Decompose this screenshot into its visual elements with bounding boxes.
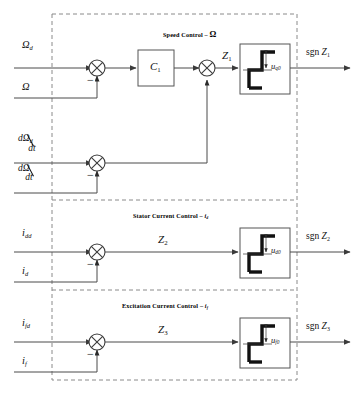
input-label-speed-reference-derivative: dΩd dt xyxy=(18,133,36,152)
input-label-speed-feedback: Ω xyxy=(22,82,30,93)
sum-sign-excitation: − xyxy=(87,348,94,360)
input-label-excitation-feedback: if xyxy=(22,356,27,367)
relay-amplitude-label-excitation: uf0 xyxy=(271,336,279,346)
section-header-speed: Speed Control – Ω xyxy=(163,30,216,39)
sum-sign-speed: − xyxy=(87,74,94,86)
control-block-diagram: Speed Control – Ω Ωd Ω − C1 Z1 uq0 sgn Z… xyxy=(0,0,358,399)
signal-label-z2: Z2 xyxy=(158,234,168,247)
z1-summing-junction xyxy=(199,60,215,76)
section-header-excitation: Excitation Current Control – if xyxy=(122,303,208,311)
diagram-canvas xyxy=(0,0,358,399)
sum-sign-stator: − xyxy=(87,258,94,270)
output-label-excitation: sgn Z3 xyxy=(306,322,330,333)
relay-amplitude-label-speed: uq0 xyxy=(271,62,281,72)
signal-label-z1: Z1 xyxy=(222,50,232,63)
relay-amplitude-label-stator: ud0 xyxy=(271,246,281,256)
signal-label-z3: Z3 xyxy=(158,324,168,337)
input-label-speed-feedback-derivative: dΩ dt xyxy=(18,163,33,181)
input-label-excitation-reference: ifd xyxy=(22,318,30,329)
input-label-speed-reference: Ωd xyxy=(22,40,33,51)
input-label-stator-reference: idd xyxy=(22,228,31,239)
section-header-stator: Stator Current Control – id xyxy=(133,213,208,221)
output-label-speed: sgn Z1 xyxy=(306,48,330,59)
sum-sign-speed-derivative: − xyxy=(87,169,94,181)
derivative-feed-path xyxy=(105,80,207,163)
input-label-stator-feedback: id xyxy=(22,266,28,277)
output-label-stator: sgn Z2 xyxy=(306,232,330,243)
controller-block-label: C1 xyxy=(150,61,161,74)
